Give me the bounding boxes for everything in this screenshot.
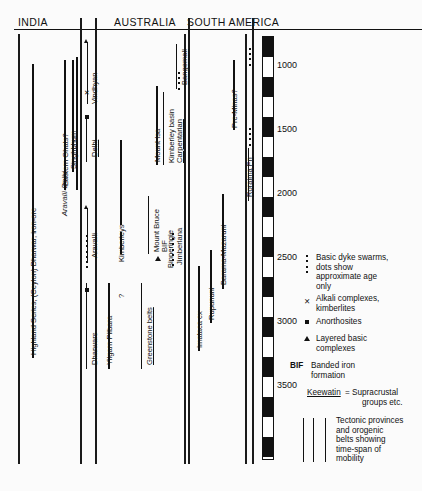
divider-india-right bbox=[80, 18, 82, 464]
axis-tick-1000: 1000 bbox=[277, 60, 297, 70]
column-header-south-america: SOUTH AMERICA bbox=[187, 16, 279, 28]
dyke-swarm-dots-india bbox=[86, 235, 88, 271]
label-bangemall: Bangemall bbox=[181, 49, 189, 85]
scale-band bbox=[263, 157, 273, 177]
label-jimberlana: Jimberlana bbox=[176, 228, 184, 265]
label-barama-mazaruni: Barama-Mazaruni bbox=[220, 225, 228, 285]
label-roraima-fn: Roraima Fn bbox=[246, 157, 254, 197]
label-rupununi: Rupununi bbox=[208, 287, 216, 320]
divider-scale-left bbox=[252, 18, 254, 464]
label-delhi: Delhi bbox=[91, 140, 99, 157]
label-imataca-cx: Imataca cx bbox=[196, 311, 204, 348]
divider-india-left bbox=[18, 34, 20, 464]
layered-basic-complex-marker-binneringie bbox=[155, 256, 161, 261]
anorthosite-marker-dharwars bbox=[85, 288, 89, 292]
time-scale-bar bbox=[262, 36, 274, 460]
anorthosite-marker-delhi bbox=[85, 115, 89, 119]
province-bar-aravalli-delhi bbox=[76, 57, 78, 190]
legend-dyke-swarm-icon bbox=[306, 255, 308, 277]
scale-band bbox=[263, 117, 273, 137]
legend-anorthosite-icon bbox=[305, 320, 309, 324]
dyke-swarm-dots-sa-upper bbox=[249, 48, 251, 69]
column-header-india: INDIA bbox=[18, 16, 48, 28]
header-underline bbox=[14, 29, 422, 30]
divider-australia-right bbox=[184, 34, 186, 464]
orogeny-bar-delhi bbox=[86, 116, 87, 162]
axis-tick-3500: 3500 bbox=[277, 380, 297, 390]
axis-tick-3000: 3000 bbox=[277, 316, 297, 326]
label-dharwars: Dharwars bbox=[91, 333, 99, 366]
scale-band bbox=[263, 37, 273, 57]
orogeny-bar-greenstone-belts bbox=[141, 283, 142, 369]
orogeny-bar-mount-bruce bbox=[148, 196, 149, 254]
legend-tectonic-text: Tectonic provinces and orogenic belts sh… bbox=[336, 416, 403, 464]
legend-kimberlite-icon: ✕ bbox=[304, 297, 310, 306]
orogeny-arrow-aravalli-head bbox=[84, 205, 88, 209]
province-bar-kimberleys-dashed bbox=[120, 232, 122, 254]
dyke-swarm-dots-australia-upper bbox=[178, 72, 180, 93]
scale-band bbox=[263, 317, 273, 337]
legend-bif-key: BIF bbox=[290, 361, 303, 370]
scale-band bbox=[263, 397, 273, 417]
legend-anorthosite-text: Anorthosites bbox=[316, 317, 362, 327]
label-pre-minas: Pre-Minas? bbox=[231, 89, 239, 128]
legend-tectonic-bars-icon bbox=[303, 418, 329, 462]
kimberlite-marker-vindhyan: ✕ bbox=[84, 89, 90, 96]
legend-keewatin-key: Keewatin bbox=[307, 388, 341, 397]
scale-band bbox=[263, 357, 273, 377]
label-greenstone-belts: Greenstone belts bbox=[146, 307, 154, 365]
orogeny-bar-kimberley-basin bbox=[163, 92, 164, 165]
dyke-swarm-dots-sa-lower bbox=[249, 128, 251, 149]
label-mount-isa: Mount Isa bbox=[154, 129, 162, 162]
legend-layered-basic-icon bbox=[304, 336, 310, 341]
orogeny-bar-bangemall bbox=[176, 44, 177, 89]
dyke-swarm-dots-jimberlana bbox=[172, 233, 174, 269]
label-vindhyan: Vindhyan bbox=[91, 72, 99, 104]
label-aravalli-delhi: Aravalli-Delhi bbox=[61, 171, 69, 216]
divider-south-america-right bbox=[245, 34, 247, 464]
axis-tick-1500: 1500 bbox=[277, 124, 297, 134]
scale-band bbox=[263, 77, 273, 97]
scale-band bbox=[263, 277, 273, 297]
label-aravalli: Aravalli bbox=[91, 233, 99, 258]
legend-layered-basic-text: Layered basic complexes bbox=[316, 334, 367, 353]
axis-tick-2500: 2500 bbox=[277, 252, 297, 262]
scale-band bbox=[263, 197, 273, 217]
legend-bif-text: Banded iron formation bbox=[311, 361, 355, 380]
label-carpentarian: Carpentarian bbox=[176, 119, 184, 163]
legend-dyke-swarm-text: Basic dyke swarms, dots show approximate… bbox=[316, 253, 388, 291]
orogeny-arrow-vindhyan-head bbox=[84, 39, 88, 43]
column-header-australia: AUSTRALIA bbox=[114, 16, 176, 28]
axis-tick-2000: 2000 bbox=[277, 188, 297, 198]
legend-keewatin-text: = Supracrustal bbox=[345, 388, 398, 398]
label-highland-series: Highland Series, (Ceylon) Dharwar, iron-… bbox=[30, 208, 38, 355]
scale-band bbox=[263, 237, 273, 257]
label-kimberleys-query: ? bbox=[118, 294, 126, 298]
province-bar-kimberleys bbox=[120, 140, 122, 225]
label-yilgarn-pilbara: Yilgarn Pilbara bbox=[106, 316, 114, 365]
legend-kimberlite-text: Alkali complexes, kimberlites bbox=[316, 294, 379, 313]
orogeny-bar-dharwars bbox=[86, 283, 87, 369]
scale-band bbox=[263, 437, 273, 457]
legend-keewatin-text2: groups etc. bbox=[362, 398, 403, 408]
